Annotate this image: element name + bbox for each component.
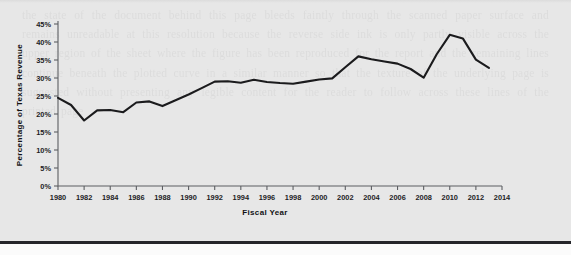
x-tick-label: 2006 (389, 193, 405, 202)
y-axis-tick-labels: 0%5%10%15%20%25%30%35%40%45% (36, 20, 51, 191)
y-tick-label: 35% (36, 56, 51, 65)
axis-spines (58, 21, 502, 186)
x-tick-label: 2008 (415, 193, 431, 202)
x-tick-label: 1990 (180, 193, 196, 202)
y-tick-label: 25% (36, 92, 51, 101)
y-axis-title: Percentage of Texas Revenue (15, 44, 24, 166)
x-tick-label: 1980 (50, 193, 66, 202)
x-axis-title: Fiscal Year (242, 208, 288, 217)
y-tick-label: 15% (36, 128, 51, 137)
x-tick-label: 1992 (206, 193, 222, 202)
series-path (58, 35, 489, 121)
x-tick-label: 1982 (76, 193, 92, 202)
x-tick-label: 2000 (311, 193, 327, 202)
chart-tick-marks (54, 24, 502, 190)
x-tick-label: 2014 (494, 193, 511, 202)
y-tick-label: 30% (36, 74, 51, 83)
y-tick-label: 5% (40, 164, 51, 173)
x-tick-label: 1988 (154, 193, 170, 202)
scanned-page: the state of the document behind this pa… (0, 0, 571, 255)
y-tick-label: 20% (36, 110, 51, 119)
x-tick-label: 1994 (233, 193, 250, 202)
x-axis-tick-labels: 1980198219841986198819901992199419961998… (50, 193, 511, 202)
x-tick-label: 2012 (468, 193, 484, 202)
x-tick-label: 2010 (442, 193, 458, 202)
y-tick-label: 0% (40, 182, 51, 191)
chart-figure: 0%5%10%15%20%25%30%35%40%45% 19801982198… (0, 0, 571, 241)
y-tick-label: 40% (36, 38, 51, 47)
x-tick-label: 1986 (128, 193, 144, 202)
x-tick-label: 2004 (363, 193, 380, 202)
y-tick-label: 10% (36, 146, 51, 155)
line-chart-svg: 0%5%10%15%20%25%30%35%40%45% 19801982198… (0, 0, 571, 241)
x-tick-label: 2002 (337, 193, 353, 202)
x-tick-label: 1998 (285, 193, 301, 202)
data-series-line (58, 35, 489, 121)
y-tick-label: 45% (36, 20, 51, 29)
page-margin-below-rule (0, 244, 571, 255)
x-tick-label: 1984 (102, 193, 119, 202)
chart-axes (58, 21, 502, 186)
x-tick-label: 1996 (259, 193, 275, 202)
